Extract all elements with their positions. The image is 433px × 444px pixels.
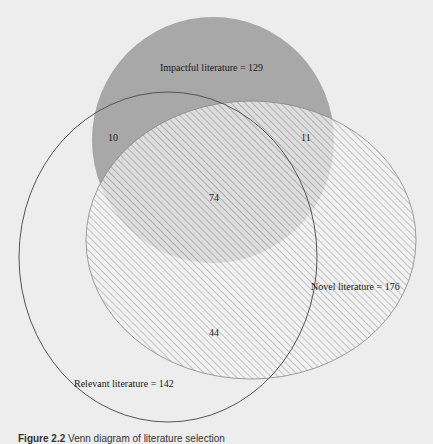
region-all-three: 74 [209,192,219,203]
novel-set-label: Novel literature = 176 [311,281,400,292]
figure-caption-text: Venn diagram of literature selection [68,433,225,444]
region-impactful-relevant: 10 [108,132,118,143]
region-impactful-novel: 11 [301,132,311,143]
figure-number: Figure 2.2 [18,433,65,444]
impactful-set-label: Impactful literature = 129 [160,62,263,73]
region-relevant-novel: 44 [209,327,219,338]
relevant-set-label: Relevant literature = 142 [74,378,174,389]
novel-set-circle [86,101,416,379]
figure-caption: Figure 2.2 Venn diagram of literature se… [18,433,225,444]
